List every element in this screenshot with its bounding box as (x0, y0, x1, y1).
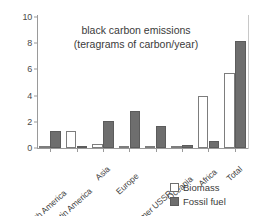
black-carbon-emissions-chart: black carbon emissions (teragrams of car… (0, 0, 258, 216)
legend-label: Biomass (183, 182, 219, 193)
x-axis-line (37, 148, 249, 149)
legend-swatch-biomass (170, 183, 179, 192)
x-axis-tick-mark (235, 148, 236, 152)
y-axis-tick-label: 2 (0, 117, 32, 127)
bar-latin-america-fossil-fuel (77, 146, 88, 148)
y-axis-tick-label: 0 (0, 143, 32, 153)
legend-item: Biomass (170, 180, 226, 194)
bar-total-biomass (224, 73, 235, 148)
bar-asia-fossil-fuel (103, 121, 114, 148)
bar-europe-biomass (119, 146, 130, 148)
bar-europe-fossil-fuel (130, 111, 141, 148)
x-axis-tick-mark (208, 148, 209, 152)
chart-legend: BiomassFossil fuel (170, 180, 226, 208)
bar-asia-biomass (92, 144, 103, 148)
x-axis-tick-mark (182, 148, 183, 152)
x-axis-tick-mark (50, 148, 51, 152)
x-axis-tick-mark (156, 148, 157, 152)
bar-former-ussr-biomass (145, 146, 156, 148)
legend-swatch-fossil (170, 197, 179, 206)
x-axis-label-asia: Asia (93, 164, 112, 182)
bar-total-fossil-fuel (235, 41, 246, 148)
bar-north-america-biomass (39, 146, 50, 148)
y-axis-tick-label: 8 (0, 38, 32, 48)
x-axis-tick-mark (129, 148, 130, 152)
legend-item: Fossil fuel (170, 194, 226, 208)
x-axis-tick-mark (103, 148, 104, 152)
bar-former-ussr-fossil-fuel (156, 126, 167, 148)
x-axis-label-total: Total (225, 164, 245, 183)
bar-oceania-biomass (171, 146, 182, 148)
bar-north-america-fossil-fuel (50, 131, 61, 148)
bar-oceania-fossil-fuel (182, 145, 193, 148)
x-axis-tick-mark (77, 148, 78, 152)
bar-africa-biomass (198, 96, 209, 148)
plot-area (37, 17, 248, 148)
plot-right-border (248, 15, 249, 149)
y-axis-tick-label: 6 (0, 64, 32, 74)
x-axis-label-europe: Europe (114, 171, 141, 196)
bar-latin-america-biomass (66, 131, 77, 148)
y-axis-tick-label: 4 (0, 91, 32, 101)
y-axis-tick-label: 10 (0, 12, 32, 22)
legend-label: Fossil fuel (183, 196, 226, 207)
bar-africa-fossil-fuel (209, 141, 220, 148)
